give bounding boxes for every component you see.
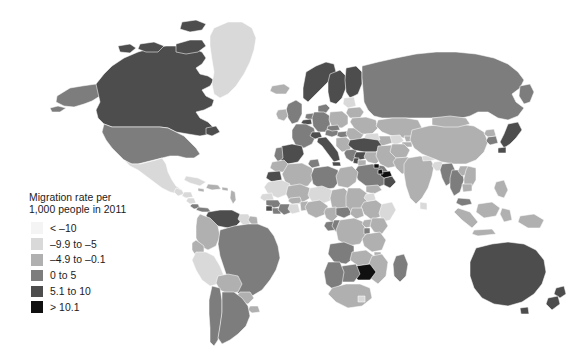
country-tasmania[interactable] (520, 307, 529, 314)
legend-row: –9.9 to –5 (31, 236, 169, 252)
legend-label-class-0: < –10 (50, 223, 77, 234)
legend-label-class-4: 5.1 to 10 (50, 286, 91, 297)
legend-label-class-2: –4.9 to –0.1 (50, 254, 106, 265)
country-puerto-rico[interactable] (222, 187, 228, 191)
legend-swatch-class-0 (31, 222, 43, 234)
country-dr-congo[interactable] (336, 218, 366, 246)
country-belarus[interactable] (346, 107, 364, 118)
legend-swatch-class-2 (31, 254, 43, 266)
country-qatar[interactable] (378, 169, 383, 174)
legend-row: 0 to 5 (31, 268, 169, 284)
legend-swatch-class-1 (31, 238, 43, 250)
map-legend: Migration rate per 1,000 people in 2011 … (29, 192, 169, 315)
legend-title: Migration rate per 1,000 people in 2011 (29, 192, 169, 217)
country-japan-kyushu[interactable] (498, 147, 506, 153)
country-kuwait[interactable] (374, 164, 379, 168)
legend-label-class-1: –9.9 to –5 (50, 239, 97, 250)
country-honduras[interactable] (182, 192, 193, 198)
legend-label-class-3: 0 to 5 (50, 270, 76, 281)
legend-row: > 10.1 (31, 299, 169, 315)
country-mongolia[interactable] (432, 116, 470, 127)
country-russia[interactable] (362, 52, 524, 120)
legend-swatch-class-5 (31, 301, 43, 313)
legend-row: < –10 (31, 220, 169, 236)
legend-label-class-5: > 10.1 (50, 302, 79, 313)
country-jamaica[interactable] (198, 188, 204, 192)
legend-row: –4.9 to –0.1 (31, 252, 169, 268)
country-lesotho[interactable] (358, 296, 365, 302)
country-sri-lanka[interactable] (420, 202, 427, 210)
legend-row: 5.1 to 10 (31, 284, 169, 300)
country-cambodia[interactable] (462, 184, 472, 192)
country-sicily[interactable] (332, 162, 341, 166)
country-rwanda-burundi[interactable] (364, 228, 370, 234)
legend-swatch-class-3 (31, 270, 43, 282)
world-migration-map-figure: Migration rate per 1,000 people in 2011 … (0, 0, 583, 353)
legend-swatch-class-4 (31, 286, 43, 298)
